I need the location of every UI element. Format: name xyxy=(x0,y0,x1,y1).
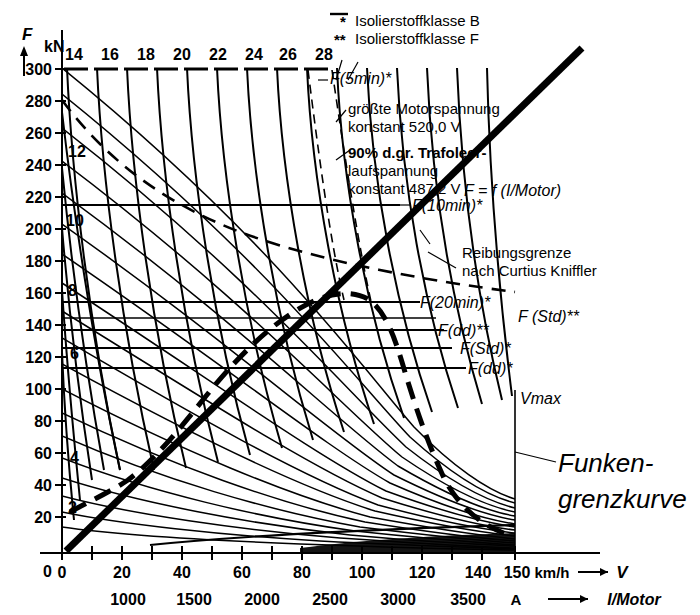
family-label-24: 24 xyxy=(245,46,263,63)
x-tick-20: 20 xyxy=(113,564,131,581)
annotation-fdd2: F(dd)** xyxy=(438,322,489,339)
family-label-18: 18 xyxy=(137,46,155,63)
x2-axis-unit-ampere: A xyxy=(511,591,522,608)
y-axis-symbol-f: F xyxy=(22,25,33,44)
y-tick-180: 180 xyxy=(25,253,52,270)
y-tick-0: 0 xyxy=(43,563,52,580)
y-axis-unit-kn: kN xyxy=(44,38,64,55)
x-axis-symbol-v: V xyxy=(616,563,629,582)
family-label-26: 26 xyxy=(279,46,297,63)
x-axis-unit-kmh: km/h xyxy=(534,564,569,581)
y-tick-100: 100 xyxy=(25,381,52,398)
x2-tick-2500: 2500 xyxy=(312,591,348,608)
legend-star-two: ** xyxy=(334,31,346,48)
y-tick-160: 160 xyxy=(25,285,52,302)
legend-text-two: Isolierstoffklasse F xyxy=(355,30,479,47)
annotation-motorspannung-line2: konstant 520,0 V xyxy=(348,118,461,135)
x-tick-0: 0 xyxy=(58,564,67,581)
annotation-vmax: Vmax xyxy=(520,390,562,407)
annotation-f20min: F(20min)* xyxy=(420,294,491,311)
x2-axis-arrow xyxy=(548,595,588,603)
annotation-trafo-line3: konstant 487,2 V xyxy=(348,180,461,197)
x2-tick-3500: 3500 xyxy=(450,591,486,608)
y-tick-280: 280 xyxy=(25,93,52,110)
x2-tick-1000: 1000 xyxy=(110,591,146,608)
x-tick-150: 150 xyxy=(504,564,531,581)
family-label-2: 2 xyxy=(68,499,77,516)
family-label-4: 4 xyxy=(70,449,79,466)
x-tick-100: 100 xyxy=(349,564,376,581)
y-tick-20: 20 xyxy=(34,509,52,526)
family-label-28: 28 xyxy=(315,46,333,63)
y-tick-40: 40 xyxy=(34,477,52,494)
y-axis-ticks: 300 280 260 240 220 200 180 160 140 120 … xyxy=(25,61,66,580)
x-tick-140: 140 xyxy=(465,564,492,581)
annotation-f5min: F(5min)* xyxy=(330,70,392,87)
legend-star-one: * xyxy=(340,13,346,30)
annotation-fstd2: F (Std)** xyxy=(518,308,580,325)
annotation-texts: F(5min)* größte Motorspannung konstant 5… xyxy=(330,70,687,514)
annotation-f10min: F(10min)* xyxy=(412,197,483,214)
family-label-12: 12 xyxy=(68,143,86,160)
annotation-reibung-line2: nach Curtius Kniffler xyxy=(462,262,597,279)
y-tick-60: 60 xyxy=(34,445,52,462)
diagram-canvas: 300 280 260 240 220 200 180 160 140 120 … xyxy=(0,0,700,615)
annotation-f-of-i: F = f (I/Motor) xyxy=(464,182,561,199)
x-axis-arrow xyxy=(578,568,608,576)
family-label-10: 10 xyxy=(66,212,84,229)
x-tick-120: 120 xyxy=(409,564,436,581)
x2-tick-labels: 1000 1500 2000 2500 3000 3500 xyxy=(110,591,486,608)
y-tick-140: 140 xyxy=(25,317,52,334)
y-tick-240: 240 xyxy=(25,157,52,174)
legend-text-one: Isolierstoffklasse B xyxy=(355,12,480,29)
x-axis-secondary-current: 1000 1500 2000 2500 3000 3500 A I/Motor xyxy=(110,591,661,608)
y-tick-200: 200 xyxy=(25,221,52,238)
x-tick-labels: 0 20 40 60 80 100 120 140 150 xyxy=(58,564,531,581)
x-tick-80: 80 xyxy=(293,564,311,581)
annotation-reibung-line1: Reibungsgrenze xyxy=(462,244,571,261)
annotation-funken-line2: grenzkurve xyxy=(558,484,687,514)
top-family-labels: 14 16 18 20 22 24 26 28 xyxy=(65,46,333,63)
x2-tick-3000: 3000 xyxy=(380,591,416,608)
family-label-22: 22 xyxy=(209,46,227,63)
legend: * Isolierstoffklasse B ** Isolierstoffkl… xyxy=(330,12,480,48)
family-label-6: 6 xyxy=(70,345,79,362)
tractive-effort-diagram: 300 280 260 240 220 200 180 160 140 120 … xyxy=(0,0,700,615)
annotation-fstd1: F(Std)* xyxy=(460,340,511,357)
annotation-funken-line1: Funken- xyxy=(558,448,654,478)
x2-tick-2000: 2000 xyxy=(244,591,280,608)
family-label-16: 16 xyxy=(101,46,119,63)
annotation-trafo-line2: laufspannung xyxy=(348,162,438,179)
y-tick-220: 220 xyxy=(25,189,52,206)
x2-axis-symbol-imotor: I/Motor xyxy=(607,591,661,608)
family-label-20: 20 xyxy=(173,46,191,63)
family-label-14: 14 xyxy=(65,46,83,63)
y-tick-labels: 300 280 260 240 220 200 180 160 140 120 … xyxy=(25,61,52,580)
annotation-motorspannung-line1: größte Motorspannung xyxy=(348,100,500,117)
y-tick-260: 260 xyxy=(25,125,52,142)
x-tick-60: 60 xyxy=(233,564,251,581)
y-tick-80: 80 xyxy=(34,413,52,430)
y-tick-120: 120 xyxy=(25,349,52,366)
y-tick-300: 300 xyxy=(25,61,52,78)
x-tick-40: 40 xyxy=(173,564,191,581)
family-label-8: 8 xyxy=(68,282,77,299)
annotation-trafo-line1: 90% d.gr. Trafoleer- xyxy=(348,144,486,161)
annotation-fdd1: F(dd)* xyxy=(468,360,513,377)
x2-tick-1500: 1500 xyxy=(176,591,212,608)
